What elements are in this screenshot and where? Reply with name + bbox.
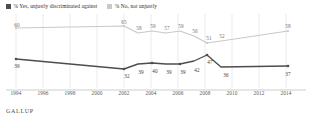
data-label-no: 51: [206, 35, 211, 41]
x-tick-2004: 2004: [146, 90, 157, 96]
gallup-line-chart: % Yes, unjustly discriminated against % …: [0, 0, 312, 128]
data-label-no: 60: [14, 22, 19, 28]
x-tick-2014: 2014: [281, 90, 292, 96]
data-label-no: 52: [219, 33, 224, 39]
data-label-no: 57: [164, 25, 169, 31]
square-swatch-icon: [6, 4, 11, 9]
x-axis: 1994 1996 1998 2000 2002 2004 2006 2008 …: [0, 90, 312, 100]
data-label-yes: 42: [194, 67, 199, 73]
chart-legend: % Yes, unjustly discriminated against % …: [6, 2, 157, 10]
legend-item-no: % No, not unjustly: [107, 2, 157, 10]
data-label-yes: 39: [138, 69, 143, 75]
data-label-no: 59: [150, 23, 155, 29]
data-label-yes: 37: [285, 71, 290, 77]
x-tick-1996: 1996: [38, 90, 49, 96]
x-tick-2010: 2010: [227, 90, 238, 96]
x-tick-2012: 2012: [254, 90, 265, 96]
x-tick-1994: 1994: [11, 90, 22, 96]
data-label-no: 58: [136, 25, 141, 31]
legend-item-yes: % Yes, unjustly discriminated against: [6, 2, 97, 10]
data-label-yes: 36: [223, 72, 228, 78]
plot-area: 60 65 58 59 57 59 56 51 52 58 39 32 39 4…: [0, 14, 312, 92]
x-tick-2002: 2002: [119, 90, 130, 96]
gallup-wordmark: GALLUP: [6, 108, 34, 114]
data-label-no: 65: [121, 19, 126, 25]
data-label-yes: 39: [180, 69, 185, 75]
legend-label-yes: % Yes, unjustly discriminated against: [14, 2, 98, 10]
x-tick-2006: 2006: [173, 90, 184, 96]
legend-label-no: % No, not unjustly: [115, 2, 157, 10]
x-tick-2000: 2000: [92, 90, 103, 96]
data-label-no: 56: [192, 28, 197, 34]
x-tick-1998: 1998: [65, 90, 76, 96]
data-label-no: 59: [178, 23, 183, 29]
data-label-yes: 32: [124, 73, 129, 79]
data-label-yes: 39: [166, 69, 171, 75]
data-label-yes: 40: [152, 68, 157, 74]
x-tick-2008: 2008: [200, 90, 211, 96]
data-label-yes: 47: [207, 59, 212, 65]
data-label-yes: 39: [14, 63, 19, 69]
square-swatch-icon: [107, 4, 112, 9]
data-label-no: 58: [285, 23, 290, 29]
